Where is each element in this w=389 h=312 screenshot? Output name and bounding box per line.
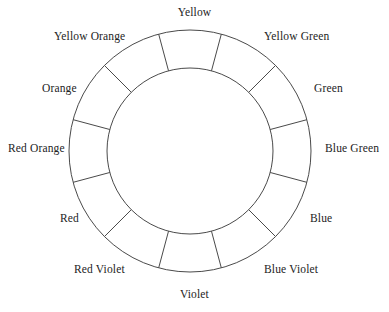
wheel-label-blue-violet: Blue Violet (264, 263, 318, 276)
segment-divider (249, 210, 276, 237)
segment-dividers (73, 34, 307, 268)
segment-divider (104, 65, 131, 92)
wheel-label-red-orange: Red Orange (8, 142, 65, 155)
wheel-label-violet: Violet (0, 288, 389, 301)
segment-divider (104, 210, 131, 237)
wheel-label-red-violet: Red Violet (74, 263, 125, 276)
wheel-label-yellow: Yellow (0, 6, 389, 19)
wheel-label-yellow-orange: Yellow Orange (54, 30, 125, 43)
wheel-label-blue-green: Blue Green (325, 142, 379, 155)
segment-divider (159, 231, 169, 268)
segment-divider (249, 65, 276, 92)
segment-divider (211, 34, 221, 71)
wheel-label-yellow-green: Yellow Green (264, 30, 329, 43)
wheel-label-green: Green (314, 82, 343, 95)
wheel-label-red: Red (60, 212, 79, 225)
color-wheel-figure: YellowYellow GreenGreenBlue GreenBlueBlu… (0, 0, 389, 312)
segment-divider (73, 120, 110, 130)
segment-divider (270, 172, 307, 182)
segment-divider (270, 120, 307, 130)
segment-divider (159, 34, 169, 71)
segment-divider (73, 172, 110, 182)
wheel-label-orange: Orange (42, 82, 77, 95)
inner-circle (107, 68, 273, 234)
wheel-label-blue: Blue (310, 212, 332, 225)
color-wheel-graphic (0, 0, 389, 312)
segment-divider (211, 231, 221, 268)
